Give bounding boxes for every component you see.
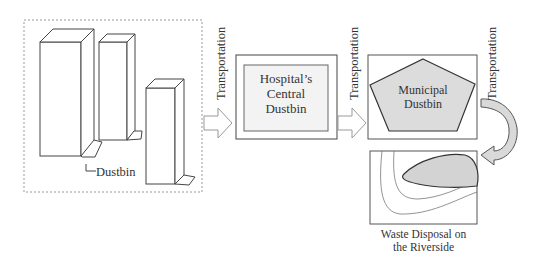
arrow-to-central (204, 108, 232, 138)
transport-label-2: Transportation (347, 27, 362, 100)
building-3 (146, 79, 195, 185)
dustbin-label: Dustbin (96, 165, 136, 179)
municipal-dustbin-label: Municipal Dustbin (389, 84, 457, 112)
flow-diagram (0, 0, 540, 262)
building-1 (40, 29, 102, 157)
arrow-to-disposal (481, 99, 517, 165)
building-2 (99, 34, 142, 140)
dustbin-pointer (86, 164, 96, 171)
disposal-label: Waste Disposal on the Riverside (370, 228, 477, 254)
transport-label-3: Transportation (485, 27, 500, 100)
central-dustbin-label: Hospital’s Central Dustbin (244, 72, 328, 117)
transport-label-1: Transportation (214, 27, 229, 100)
arrow-to-municipal (338, 108, 366, 138)
